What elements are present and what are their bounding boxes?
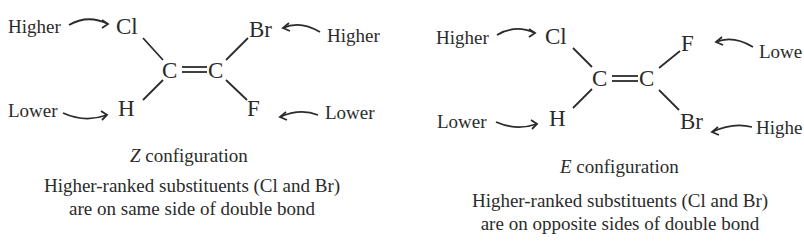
e-arrow-lower-h	[496, 122, 537, 127]
z-bond-h-c	[143, 80, 163, 100]
z-atom-cl: Cl	[116, 15, 138, 38]
z-description-line2: are on same side of double bond	[20, 199, 364, 218]
z-bond-cl-c	[143, 38, 163, 60]
e-arrow-higher-br	[712, 125, 752, 132]
z-bond-c-br	[226, 38, 248, 60]
e-bond-c-br	[659, 90, 679, 110]
z-atom-carbon-left: C	[162, 59, 177, 82]
z-description-line1: Higher-ranked substituents (Cl and Br)	[20, 176, 364, 195]
z-bond-c-f	[226, 80, 247, 100]
z-label-br-rank: Higher	[327, 26, 380, 45]
e-label-br-rank: Highe	[756, 118, 802, 137]
e-bond-cl-c	[573, 48, 592, 67]
e-label-h-rank: Lower	[437, 112, 487, 131]
z-label-cl-rank: Higher	[8, 17, 61, 36]
z-caption: Z configuration	[130, 146, 248, 165]
z-molecule-bonds	[143, 38, 248, 100]
e-atom-carbon-left: C	[592, 67, 607, 90]
z-atom-carbon-right: C	[208, 59, 223, 82]
e-arrows	[496, 29, 753, 135]
z-atom-h: H	[118, 97, 135, 120]
e-label-f-rank: Lowe	[759, 42, 802, 61]
z-arrow-lower-h	[63, 113, 107, 119]
e-molecule-bonds	[573, 48, 680, 110]
e-bond-c-f	[659, 51, 680, 68]
e-label-cl-rank: Higher	[436, 28, 489, 47]
e-caption: E configuration	[560, 157, 679, 176]
e-atom-f: F	[681, 32, 694, 55]
e-arrow-lower-f	[716, 39, 753, 47]
e-description-line2: are on opposite sides of double bond	[448, 214, 792, 233]
e-atom-br: Br	[680, 110, 703, 133]
e-atom-cl: Cl	[545, 25, 567, 48]
e-caption-letter: E	[560, 156, 572, 177]
z-label-f-rank: Lower	[325, 103, 375, 122]
e-atom-carbon-right: C	[639, 67, 654, 90]
z-atom-f: F	[247, 97, 260, 120]
z-label-h-rank: Lower	[8, 101, 58, 120]
e-caption-text: configuration	[572, 156, 679, 177]
e-atom-h: H	[549, 107, 566, 130]
e-description-line1: Higher-ranked substituents (Cl and Br)	[448, 191, 792, 210]
e-bond-h-c	[573, 89, 592, 108]
z-arrows	[63, 19, 320, 120]
z-caption-text: configuration	[141, 145, 248, 166]
z-caption-letter: Z	[130, 145, 141, 166]
z-atom-br: Br	[249, 18, 272, 41]
